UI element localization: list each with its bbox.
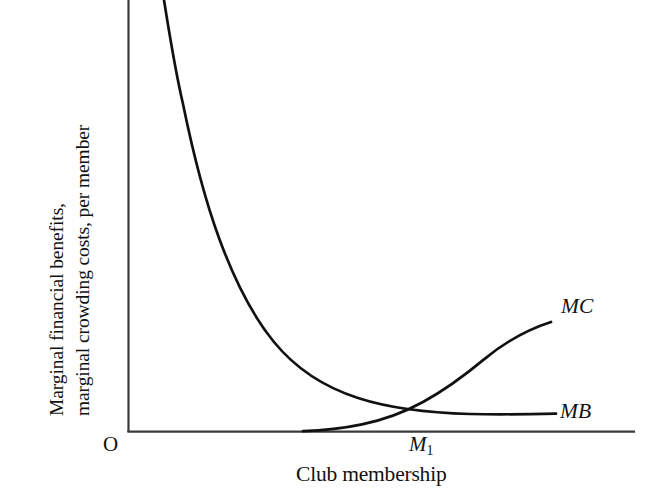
mb-curve-label: MB — [560, 399, 591, 424]
y-axis-label-line-2: marginal crowding costs, per member — [70, 16, 96, 416]
x-axis-label: Club membership — [296, 462, 446, 487]
x-tick-label-m1: M1 — [409, 432, 434, 463]
y-axis-label-line-1: Marginal financial benefits, — [44, 16, 70, 416]
y-axis-label: Marginal financial benefits, marginal cr… — [44, 16, 100, 416]
x-tick-label-m1-base: M — [409, 432, 427, 456]
x-tick-label-m1-subscript: 1 — [427, 443, 434, 458]
mb-curve — [164, 0, 556, 414]
figure-canvas: Marginal financial benefits, marginal cr… — [0, 0, 663, 503]
mc-curve-label: MC — [561, 294, 593, 319]
origin-label: O — [103, 432, 118, 456]
